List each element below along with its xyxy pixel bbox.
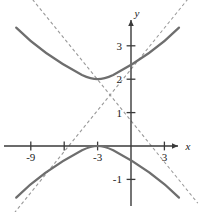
x-tick-label--3: -3 (93, 151, 103, 163)
asymptote-positive-slope-line (14, 0, 198, 212)
upper-branch-curve (16, 28, 179, 80)
asymptote-negative-slope-line (14, 0, 198, 203)
x-axis-label: x (185, 140, 191, 152)
hyperbola-graph-figure: -9 -3 3 3 2 1 -1 x y (0, 0, 202, 212)
hyperbola-branches-group (16, 28, 179, 198)
y-tick-label--1: -1 (113, 173, 122, 185)
y-tick-label-3: 3 (117, 40, 123, 52)
x-axis-arrowhead (172, 143, 178, 149)
axes-group (4, 20, 178, 206)
x-tick-label--9: -9 (26, 151, 36, 163)
x-tick-label-3: 3 (162, 151, 168, 163)
y-tick-label-1: 1 (117, 107, 123, 119)
y-axis-arrowhead (128, 20, 134, 26)
y-axis-label: y (134, 7, 140, 19)
graph-canvas: -9 -3 3 3 2 1 -1 x y (0, 0, 202, 212)
y-tick-label-2: 2 (117, 73, 123, 85)
asymptotes-group (14, 0, 198, 212)
